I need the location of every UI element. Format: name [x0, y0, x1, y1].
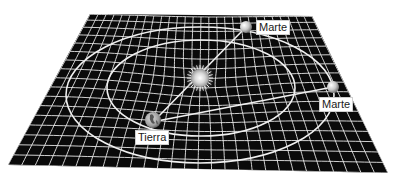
mars-top-icon: [240, 21, 252, 33]
mars-right-label: Marte: [319, 97, 353, 112]
earth: [145, 112, 161, 128]
mars-top-label: Marte: [256, 20, 290, 35]
sun: [184, 62, 216, 94]
sun-icon: [191, 69, 209, 87]
spacetime-grid-svg: [0, 0, 395, 185]
earth-label: Tierra: [135, 130, 169, 145]
spacetime-diagram: Marte Marte Tierra: [0, 0, 395, 185]
mars-right-icon: [327, 81, 339, 93]
